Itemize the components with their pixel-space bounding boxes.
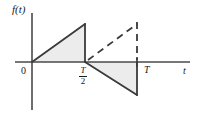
dashed-ramp-line: [88, 24, 137, 60]
plot-canvas: [0, 0, 198, 114]
half-period-denominator: 2: [80, 77, 87, 86]
tick-label-period: T: [144, 65, 150, 75]
x-axis-label: t: [183, 66, 186, 76]
origin-label: 0: [21, 66, 26, 76]
y-axis-label: f(t): [12, 4, 25, 15]
half-period-numerator: T: [79, 66, 86, 75]
tick-label-half-period: T 2: [79, 66, 87, 87]
waveform-figure: f(t) t 0 T T 2: [0, 0, 198, 114]
